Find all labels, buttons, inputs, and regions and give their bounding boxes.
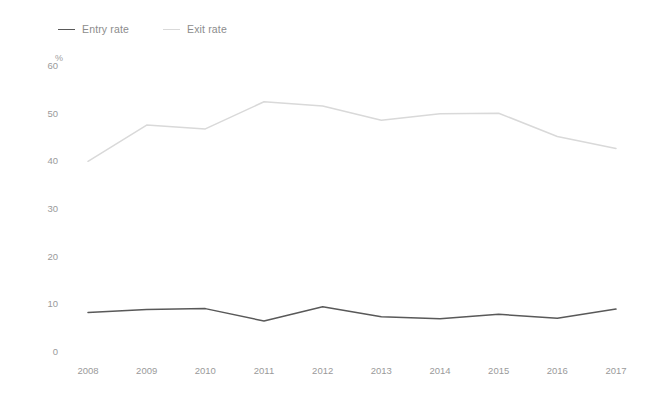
- series-line-entry-rate: [88, 307, 616, 321]
- plot-svg: [0, 0, 651, 405]
- plot-area: [0, 0, 651, 405]
- line-chart: Entry rate Exit rate % 0102030405060 200…: [0, 0, 651, 405]
- series-line-exit-rate: [88, 102, 616, 162]
